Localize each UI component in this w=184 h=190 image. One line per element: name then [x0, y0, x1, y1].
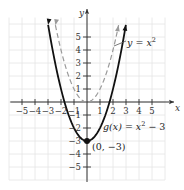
x-tick-label: 5	[149, 106, 154, 116]
y-tick-label: 3	[76, 58, 81, 68]
annotation-f: y = x2	[126, 36, 156, 48]
vertex-point	[84, 138, 90, 144]
y-tick-label: −1	[68, 110, 81, 120]
x-tick-label: 4	[136, 106, 141, 116]
x-tick-label: −2	[55, 106, 68, 116]
curve-y-equals-x-squared-arrow-icon	[115, 25, 120, 31]
y-tick-label: −5	[68, 162, 81, 172]
annotation-g: g(x) = x2 − 3	[103, 120, 165, 132]
y-axis-label: y	[78, 8, 85, 18]
x-axis-label: x	[175, 103, 180, 113]
y-tick-label: 4	[76, 45, 81, 55]
graph-canvas: −5−4−3−2−112345−5−4−3−2−112345 x y y = x…	[0, 0, 184, 190]
x-tick-label: −5	[16, 106, 29, 116]
y-tick-label: −4	[68, 149, 81, 159]
y-tick-label: −2	[68, 123, 81, 133]
leader-line-f	[114, 41, 126, 46]
x-tick-label: 1	[97, 106, 102, 116]
y-tick-label: 1	[76, 84, 81, 94]
y-tick-label: −3	[68, 136, 81, 146]
x-tick-label: 3	[123, 106, 128, 116]
x-tick-label: −3	[42, 106, 55, 116]
y-tick-label: 2	[76, 71, 81, 81]
x-tick-label: 2	[110, 106, 115, 116]
y-tick-label: 5	[76, 32, 81, 42]
x-tick-label: −4	[29, 106, 42, 116]
vertex-label: (0, −3)	[92, 141, 126, 152]
